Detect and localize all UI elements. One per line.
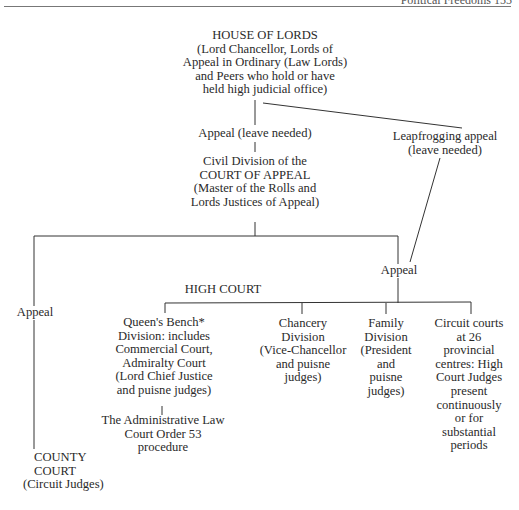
house-of-lords-line: Appeal in Ordinary (Law Lords) — [150, 56, 380, 70]
chancery-division-line: Division — [255, 331, 351, 345]
high-court-node: HIGH COURT — [178, 283, 268, 297]
leapfrogging-appeal-note: (leave needed) — [385, 144, 505, 158]
circuit-courts-line: or for — [424, 412, 514, 426]
house-of-lords-line: held high judicial office) — [150, 83, 380, 97]
connector-leapfrog-to-appeal — [410, 158, 440, 262]
circuit-courts-line: substantial — [424, 426, 514, 440]
queens-bench-line: Commercial Court, — [105, 343, 223, 357]
family-division-line: (President — [358, 344, 414, 358]
chancery-division-line: (Vice-Chancellor — [255, 344, 351, 358]
family-division-node: Family Division (President and puisne ju… — [358, 317, 414, 399]
circuit-courts-line: periods — [424, 439, 514, 453]
family-division-line: and — [358, 358, 414, 372]
appeal-right-label: Appeal — [372, 264, 426, 278]
queens-bench-node: Queen's Bench* Division: includes Commer… — [105, 316, 223, 398]
house-of-lords-line: and Peers who hold or have — [150, 70, 380, 84]
circuit-courts-line: Circuit courts — [424, 317, 514, 331]
queens-bench-line: (Lord Chief Justice — [105, 370, 223, 384]
court-of-appeal-title: COURT OF APPEAL — [180, 169, 330, 183]
queens-bench-line: and puisne judges) — [105, 384, 223, 398]
county-court-title: COUNTY — [20, 451, 110, 465]
circuit-courts-line: present — [424, 385, 514, 399]
chancery-division-line: Chancery — [255, 317, 351, 331]
family-division-line: Family — [358, 317, 414, 331]
queens-bench-line: Admiralty Court — [105, 357, 223, 371]
administrative-law-court-line: procedure — [98, 441, 228, 455]
family-division-line: judges) — [358, 385, 414, 399]
administrative-law-court-line: Court Order 53 — [98, 428, 228, 442]
court-of-appeal-node: Civil Division of the COURT OF APPEAL (M… — [180, 155, 330, 209]
family-division-line: Division — [358, 331, 414, 345]
circuit-courts-line: continuously — [424, 399, 514, 413]
chancery-division-line: and puisne — [255, 358, 351, 372]
chancery-division-line: judges) — [255, 371, 351, 385]
administrative-law-court-node: The Administrative Law Court Order 53 pr… — [98, 414, 228, 455]
county-court-node: COUNTY COURT (Circuit Judges) — [20, 451, 110, 492]
circuit-courts-line: provincial — [424, 344, 514, 358]
appeal-left-label: Appeal — [8, 306, 62, 320]
circuit-courts-node: Circuit courts at 26 provincial centres:… — [424, 317, 514, 453]
house-of-lords-title: HOUSE OF LORDS — [150, 29, 380, 43]
leapfrogging-appeal-label: Leapfrogging appeal — [385, 130, 505, 144]
court-of-appeal-line: Lords Justices of Appeal) — [180, 196, 330, 210]
court-of-appeal-line: (Master of the Rolls and — [180, 182, 330, 196]
family-division-line: puisne — [358, 371, 414, 385]
circuit-courts-line: at 26 — [424, 331, 514, 345]
house-of-lords-line: (Lord Chancellor, Lords of — [150, 43, 380, 57]
leapfrogging-appeal-node: Leapfrogging appeal (leave needed) — [385, 130, 505, 157]
appeal-left-node: Appeal — [8, 306, 62, 320]
queens-bench-line: Division: includes — [105, 330, 223, 344]
county-court-title: COURT — [20, 465, 110, 479]
connector-divisions-horizontal — [165, 302, 471, 303]
appeal-leave-needed-label: Appeal (leave needed) — [190, 127, 320, 141]
administrative-law-court-line: The Administrative Law — [98, 414, 228, 428]
court-of-appeal-line: Civil Division of the — [180, 155, 330, 169]
chancery-division-node: Chancery Division (Vice-Chancellor and p… — [255, 317, 351, 385]
circuit-courts-line: centres: High — [424, 358, 514, 372]
connector-lords-to-leapfrog — [263, 103, 462, 128]
county-court-judges: (Circuit Judges) — [23, 478, 110, 492]
appeal-leave-needed-node: Appeal (leave needed) — [190, 127, 320, 141]
appeal-right-node: Appeal — [372, 264, 426, 278]
high-court-title: HIGH COURT — [178, 283, 268, 297]
queens-bench-line: Queen's Bench* — [105, 316, 223, 330]
circuit-courts-line: Court Judges — [424, 371, 514, 385]
house-of-lords-node: HOUSE OF LORDS (Lord Chancellor, Lords o… — [150, 29, 380, 97]
